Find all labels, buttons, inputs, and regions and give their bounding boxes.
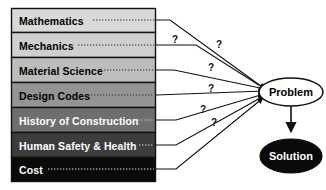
- discipline-label-human-safety-health: Human Safety & Health: [19, 140, 137, 152]
- discipline-label-mathematics: Mathematics: [19, 15, 84, 27]
- discipline-row-design-codes[interactable]: Design Codes: [12, 83, 156, 108]
- discipline-label-cost: Cost: [19, 164, 43, 176]
- discipline-label-design-codes: Design Codes: [19, 90, 90, 102]
- discipline-row-history-of-construction[interactable]: History of Construction: [12, 108, 156, 133]
- question-mark-2: ?: [216, 39, 222, 50]
- question-mark-4: ?: [208, 83, 214, 94]
- discipline-row-cost[interactable]: Cost: [12, 158, 156, 182]
- arrow-cost-to-problem: [156, 98, 263, 169]
- question-mark-6: ?: [211, 117, 217, 128]
- discipline-row-mathematics[interactable]: Mathematics: [12, 9, 156, 33]
- diagram-canvas: Mathematics Mechanics Material Science D…: [0, 0, 326, 190]
- discipline-label-mechanics: Mechanics: [19, 40, 74, 52]
- discipline-row-mechanics[interactable]: Mechanics: [12, 33, 156, 58]
- question-mark-3: ?: [208, 62, 214, 73]
- problem-label: Problem: [269, 86, 313, 98]
- problem-node[interactable]: Problem: [259, 78, 323, 106]
- solution-node[interactable]: Solution: [260, 139, 322, 173]
- question-mark-5: ?: [200, 104, 206, 115]
- discipline-row-human-safety-health[interactable]: Human Safety & Health: [12, 133, 156, 158]
- discipline-label-history-of-construction: History of Construction: [19, 115, 139, 127]
- discipline-stack: Mathematics Mechanics Material Science D…: [12, 9, 156, 182]
- solution-label: Solution: [269, 150, 313, 162]
- discipline-label-material-science: Material Science: [19, 65, 103, 77]
- question-mark-1: ?: [172, 34, 178, 45]
- arrow-history-of-construction-to-problem: [156, 94, 264, 120]
- discipline-row-material-science[interactable]: Material Science: [12, 58, 156, 83]
- discipline-convergence-diagram: Mathematics Mechanics Material Science D…: [0, 0, 326, 190]
